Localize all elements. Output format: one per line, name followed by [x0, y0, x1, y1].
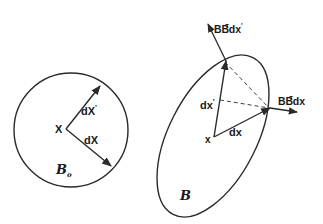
dashed-guide-2: [220, 100, 269, 108]
vector-dx-prime: [214, 61, 226, 137]
deformation-diagram: X dX' dX Bo x dx' dx BBTdx' BBTdx B: [0, 0, 323, 224]
deformed-ellipse: [134, 38, 292, 224]
dx-prime-label: dx': [200, 97, 215, 111]
dX-label: dX: [84, 134, 99, 146]
BBT-dx-label: BBTdx: [278, 95, 305, 107]
dx-label: dx: [229, 126, 243, 138]
region-B-label: B: [179, 188, 191, 203]
point-X-label: X: [55, 123, 63, 135]
dashed-guide-1: [225, 62, 269, 108]
BBT-dx-prime-label: BBTdx': [214, 22, 243, 35]
reference-configuration: X dX' dX Bo: [14, 73, 128, 187]
point-x-label: x: [205, 134, 211, 145]
dX-prime-label: dX': [81, 103, 97, 117]
region-Bo-label: Bo: [55, 162, 72, 179]
vector-BBT-dx: [270, 108, 297, 112]
deformed-configuration: x dx' dx BBTdx' BBTdx B: [134, 22, 305, 224]
